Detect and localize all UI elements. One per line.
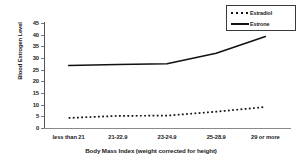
y-tick-label: 30 <box>22 55 39 61</box>
y-tick-label: 40 <box>22 32 39 38</box>
y-tick-label: 15 <box>22 90 39 96</box>
y-tick-label: 25 <box>22 67 39 73</box>
y-tick-label: 0 <box>22 125 39 131</box>
legend-item-estradiol: Estradiol <box>230 8 293 18</box>
x-axis-title: Body Mass Index (weight corrected for he… <box>0 147 302 154</box>
y-tick-label: 5 <box>22 113 39 119</box>
y-tick-mark <box>41 128 44 129</box>
y-tick-mark <box>41 116 44 117</box>
y-axis-tick-labels: 051015202530354045 <box>22 20 39 128</box>
y-tick-label: 35 <box>22 43 39 49</box>
y-tick-mark <box>41 58 44 59</box>
y-tick-mark <box>41 81 44 82</box>
x-tick-label: less than 21 <box>53 133 85 141</box>
y-tick-label: 45 <box>22 20 39 26</box>
x-tick-label: 21-22.9 <box>108 133 127 141</box>
series-line-estrone <box>69 37 266 66</box>
x-tick-label: 25-28.9 <box>207 133 226 141</box>
x-axis-tick-labels: less than 2121-22.923-24.925-28.929 or m… <box>44 133 290 143</box>
legend-label-estrone: Estrone <box>250 20 269 28</box>
legend-item-estrone: Estrone <box>230 19 293 29</box>
y-tick-mark <box>41 70 44 71</box>
solid-line-swatch-icon <box>230 20 250 28</box>
y-tick-mark <box>41 93 44 94</box>
y-tick-mark <box>41 23 44 24</box>
series-lines <box>44 23 290 128</box>
x-tick-label: 29 or more <box>251 133 280 141</box>
y-tick-mark <box>41 35 44 36</box>
y-tick-label: 20 <box>22 78 39 84</box>
plot-area <box>44 23 290 128</box>
x-axis-line <box>44 128 291 129</box>
dotted-line-swatch-icon <box>230 9 250 17</box>
y-tick-mark <box>41 46 44 47</box>
y-tick-mark <box>41 105 44 106</box>
legend-label-estradiol: Estradiol <box>250 9 272 17</box>
series-line-estradiol <box>69 107 266 118</box>
y-tick-label: 10 <box>22 102 39 108</box>
chart-legend: Estradiol Estrone <box>226 5 296 31</box>
x-tick-label: 23-24.9 <box>158 133 177 141</box>
estrogen-bmi-line-chart: Blood Estrogen Level 051015202530354045 … <box>0 0 302 165</box>
